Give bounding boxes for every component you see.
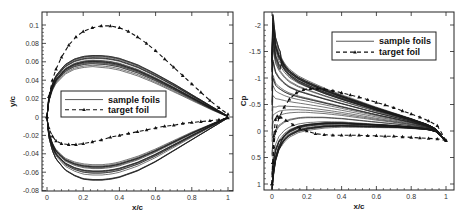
x-tick-label: 0 xyxy=(45,194,49,201)
triangle-marker-icon xyxy=(190,82,194,85)
triangle-marker-icon xyxy=(109,135,113,138)
y-tick-label: -0.08 xyxy=(23,187,39,194)
y-tick-label: -1.5 xyxy=(249,48,261,55)
triangle-marker-icon xyxy=(51,78,55,81)
y-tick-label: 0 xyxy=(257,128,261,135)
y-tick-label: -1 xyxy=(255,75,261,82)
x-tick-label: 0.2 xyxy=(302,193,312,200)
x-tick-label: 0 xyxy=(270,193,274,200)
airfoil-comparison-figure: 00.20.40.60.810.10.080.060.040.020-0.02-… xyxy=(0,0,470,216)
y-tick-label: 0.06 xyxy=(25,58,39,65)
triangle-marker-icon xyxy=(226,112,230,115)
y-axis-title: Cp xyxy=(239,96,248,107)
triangle-marker-icon xyxy=(136,130,140,133)
triangle-marker-icon xyxy=(383,103,387,106)
triangle-marker-icon xyxy=(436,124,440,127)
triangle-marker-icon xyxy=(163,57,167,60)
triangle-marker-icon xyxy=(51,134,55,137)
x-axis-title: x/c xyxy=(353,202,365,211)
triangle-marker-icon xyxy=(81,29,85,32)
y-tick-label: 0.04 xyxy=(25,77,39,84)
x-tick-label: 0.6 xyxy=(372,193,382,200)
y-tick-label: 0.1 xyxy=(29,22,39,29)
triangle-marker-icon xyxy=(314,132,318,135)
y-tick-label: 1 xyxy=(257,181,261,188)
triangle-marker-icon xyxy=(349,93,353,96)
y-axis-title: y/c xyxy=(8,95,17,107)
y-tick-label: -0.06 xyxy=(23,169,39,176)
sample-foil-line xyxy=(47,117,228,180)
y-tick-label: 0.02 xyxy=(25,95,39,102)
triangle-marker-icon xyxy=(409,112,413,115)
sample-foil-line xyxy=(47,117,228,175)
y-tick-label: -0.04 xyxy=(23,150,39,157)
x-tick-label: 0.2 xyxy=(78,194,88,201)
y-tick-label: 0.5 xyxy=(251,154,261,161)
x-axis-title: x/c xyxy=(132,203,144,212)
triangle-marker-icon xyxy=(100,24,104,27)
y-tick-label: -0.5 xyxy=(249,101,261,108)
x-tick-label: 1 xyxy=(444,193,448,200)
triangle-marker-icon xyxy=(136,35,140,38)
triangle-marker-icon xyxy=(349,133,353,136)
legend: sample foilstarget foil xyxy=(332,32,436,60)
y-tick-label: -0.02 xyxy=(23,132,39,139)
triangle-marker-icon xyxy=(118,26,122,29)
triangle-marker-icon xyxy=(199,90,203,93)
legend: sample foilstarget foil xyxy=(61,91,166,117)
y-tick-label: 0.08 xyxy=(25,40,39,47)
x-tick-label: 1 xyxy=(226,194,230,201)
x-tick-label: 0.4 xyxy=(337,193,347,200)
x-tick-label: 0.8 xyxy=(187,194,197,201)
triangle-marker-icon xyxy=(74,35,78,38)
triangle-marker-icon xyxy=(357,95,361,98)
x-tick-label: 0.6 xyxy=(151,194,161,201)
y-tick-label: -2 xyxy=(255,22,261,29)
triangle-marker-icon xyxy=(383,134,387,137)
triangle-marker-icon xyxy=(270,182,274,185)
sample-foil-line xyxy=(47,117,228,167)
y-tick-label: 0 xyxy=(35,114,39,121)
sample-foil-line xyxy=(47,117,228,180)
legend-label-sample: sample foils xyxy=(108,95,160,105)
sample-foil-line xyxy=(272,79,446,142)
pressure-coefficient-plot: 00.20.40.60.81-2-1.5-1-0.500.51x/cCpsamp… xyxy=(239,12,454,211)
x-tick-label: 0.8 xyxy=(406,193,416,200)
legend-label-target: target foil xyxy=(379,47,420,57)
legend-label-target: target foil xyxy=(108,105,149,115)
airfoil-shape-plot: 00.20.40.60.810.10.080.060.040.020-0.02-… xyxy=(8,12,233,212)
x-tick-label: 0.4 xyxy=(115,194,125,201)
legend-label-sample: sample foils xyxy=(379,36,431,46)
triangle-marker-icon xyxy=(163,124,167,127)
sample-foil-line xyxy=(47,117,228,169)
